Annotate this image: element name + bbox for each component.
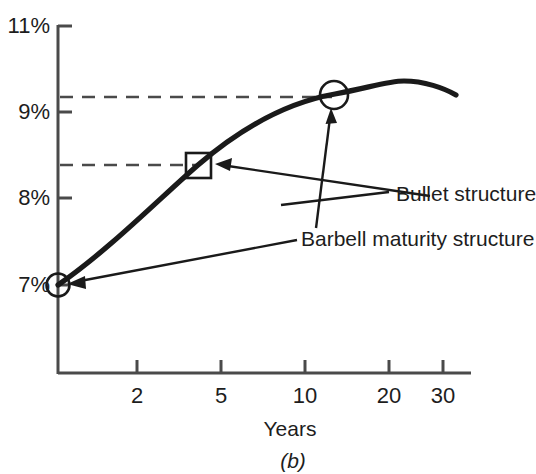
y-tick-label-8: 8% — [0, 187, 50, 209]
y-tick-label-11: 11% — [0, 15, 50, 37]
annotation-barbell-structure: Barbell maturity structure — [301, 228, 534, 249]
x-tick-label-10: 10 — [285, 385, 325, 407]
y-tick-label-7: 7% — [0, 274, 50, 296]
x-tick-label-5: 5 — [201, 385, 241, 407]
leader-bullet-structure — [281, 108, 389, 228]
x-tick-label-20: 20 — [369, 385, 409, 407]
leader-barbell-to-origin — [67, 240, 297, 289]
figure-caption: (b) — [243, 450, 343, 471]
annotation-bullet-structure: Bullet structure — [396, 183, 536, 204]
x-tick-label-30: 30 — [423, 385, 463, 407]
x-tick-label-2: 2 — [117, 385, 157, 407]
y-tick-label-9: 9% — [0, 101, 50, 123]
x-axis-title: Years — [230, 418, 350, 439]
